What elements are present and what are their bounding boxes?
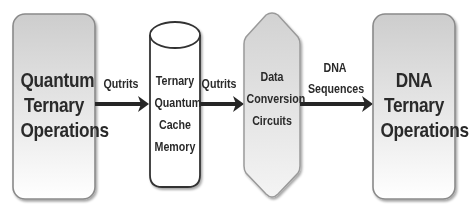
- ternary-quantum-cache-memory-label: Ternary Quantum Cache Memory: [155, 70, 196, 158]
- label-line: Ternary: [155, 70, 196, 92]
- label-line: DNA: [380, 67, 447, 92]
- label-line: DNA: [308, 57, 362, 78]
- label-line: Quantum: [155, 92, 196, 114]
- quantum-ternary-operations-label: Quantum Ternary Operations: [20, 67, 87, 142]
- label-line: Ternary: [20, 92, 87, 117]
- label-line: Ternary: [380, 92, 447, 117]
- label-line: Data: [247, 66, 298, 88]
- label-line: Operations: [20, 117, 87, 142]
- edge-label-qutrits-2: Qutrits: [202, 73, 235, 94]
- label-line: Qutrits: [101, 73, 142, 94]
- label-line: Circuits: [247, 110, 298, 132]
- label-line: Cache: [155, 114, 196, 136]
- edge-label-dna-sequences: DNA Sequences: [308, 57, 362, 99]
- label-line: Quantum: [20, 67, 87, 92]
- label-line: Memory: [155, 136, 196, 158]
- arrow-qutrits-2: [200, 96, 244, 112]
- label-line: Sequences: [308, 78, 362, 99]
- label-line: Conversion: [247, 88, 298, 110]
- label-line: Operations: [380, 117, 447, 142]
- edge-label-qutrits-1: Qutrits: [101, 73, 142, 94]
- dna-ternary-operations-label: DNA Ternary Operations: [380, 67, 447, 142]
- label-line: Qutrits: [202, 73, 235, 94]
- arrow-qutrits-1: [95, 96, 149, 112]
- data-conversion-circuits-label: Data Conversion Circuits: [247, 66, 298, 132]
